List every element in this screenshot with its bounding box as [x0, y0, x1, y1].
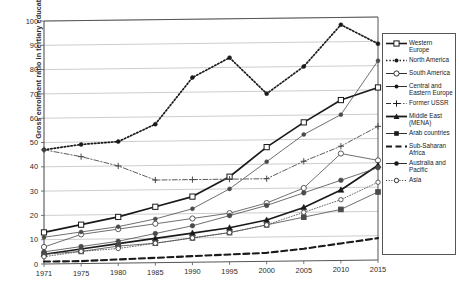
- gridline-y: [44, 139, 378, 143]
- x-tick-label: 2015: [370, 265, 386, 274]
- series-line-2: [44, 154, 378, 247]
- series-marker-6: [376, 190, 381, 195]
- series-marker-4: [152, 177, 158, 183]
- series-marker-8: [79, 244, 84, 249]
- series-line-5: [44, 165, 378, 254]
- chart-legend: Western EuropeNorth AmericaSouth America…: [382, 33, 456, 255]
- series-marker-4: [264, 176, 270, 182]
- series-marker-3: [42, 235, 46, 239]
- x-tick-label: 2010: [333, 265, 349, 274]
- series-marker-0: [190, 194, 195, 199]
- series-marker-1: [376, 42, 380, 46]
- series-line-4: [44, 126, 378, 180]
- y-tick-label: 30: [30, 187, 38, 196]
- chart-figure: Gross enrolment ratio in tertiary educat…: [0, 0, 459, 292]
- legend-item-label: Sub-Saharan Africa: [409, 141, 453, 156]
- series-marker-3: [339, 113, 343, 117]
- x-tick-label: 1975: [73, 269, 89, 278]
- legend-item[interactable]: Central and Eastern Europe: [385, 81, 453, 96]
- series-marker-4: [115, 163, 121, 169]
- series-marker-2: [41, 244, 46, 249]
- series-marker-9: [302, 210, 306, 214]
- y-tick-label: 10: [30, 235, 38, 244]
- series-marker-4: [375, 123, 381, 129]
- series-marker-3: [79, 230, 83, 234]
- series-marker-9: [264, 223, 268, 227]
- series-marker-8: [339, 178, 344, 183]
- gridline-y: [44, 90, 378, 94]
- series-marker-1: [79, 142, 83, 146]
- legend-item[interactable]: Australia and Pacific: [385, 158, 453, 173]
- legend-symbol-icon: [385, 128, 409, 139]
- x-tick-label: 1995: [221, 267, 237, 276]
- series-marker-2: [153, 221, 158, 226]
- series-marker-9: [42, 255, 46, 259]
- gridline-y: [44, 236, 378, 240]
- legend-item-label: South America: [409, 68, 450, 76]
- x-tick-label: 1980: [110, 268, 126, 277]
- series-marker-1: [190, 76, 194, 80]
- series-marker-1: [265, 92, 269, 96]
- series-marker-1: [153, 122, 157, 126]
- series-marker-0: [338, 97, 343, 102]
- legend-item[interactable]: Arab countries: [385, 128, 453, 139]
- series-marker-2: [338, 151, 343, 156]
- series-marker-4: [338, 143, 344, 149]
- gridline-y: [44, 163, 378, 167]
- legend-item[interactable]: South America: [385, 68, 453, 79]
- series-marker-3: [265, 160, 269, 164]
- series-marker-8: [116, 239, 121, 244]
- y-tick-label: 50: [30, 138, 38, 147]
- series-marker-4: [189, 177, 195, 183]
- y-tick-label: 20: [30, 211, 38, 220]
- series-marker-0: [41, 230, 46, 235]
- legend-item-label: Central and Eastern Europe: [409, 81, 453, 96]
- legend-item[interactable]: Middle East (MENA): [385, 111, 453, 126]
- legend-item[interactable]: North America: [385, 55, 453, 66]
- series-marker-8: [301, 191, 306, 196]
- series-marker-0: [264, 145, 269, 150]
- legend-symbol-icon: [385, 38, 409, 49]
- series-marker-2: [301, 185, 306, 190]
- legend-symbol-icon: [385, 81, 409, 92]
- series-marker-8: [42, 250, 47, 255]
- legend-item[interactable]: Former USSR: [385, 98, 453, 109]
- series-marker-8: [264, 203, 269, 208]
- y-tick-label: 80: [30, 65, 38, 74]
- legend-item-label: Asia: [409, 175, 421, 183]
- legend-item-label: Arab countries: [409, 128, 450, 136]
- legend-item-label: North America: [409, 55, 449, 63]
- series-marker-1: [228, 56, 232, 60]
- series-marker-1: [116, 140, 120, 144]
- series-marker-6: [301, 215, 306, 220]
- series-marker-3: [190, 207, 194, 211]
- series-marker-1: [302, 64, 306, 68]
- gridline-y: [44, 41, 378, 45]
- series-marker-9: [339, 197, 343, 201]
- legend-symbol-icon: [385, 175, 409, 186]
- y-tick-label: 60: [30, 114, 38, 123]
- legend-symbol-icon: [385, 141, 409, 152]
- legend-item-label: Western Europe: [409, 38, 453, 53]
- series-marker-9: [227, 230, 231, 234]
- legend-item-label: Former USSR: [409, 98, 449, 106]
- legend-symbol-icon: [385, 111, 409, 122]
- y-tick-label: 0: [34, 260, 38, 269]
- series-marker-2: [190, 216, 195, 221]
- series-marker-8: [227, 213, 232, 218]
- legend-symbol-icon: [385, 55, 409, 66]
- series-marker-1: [339, 23, 343, 27]
- series-marker-9: [190, 236, 194, 240]
- legend-symbol-icon: [385, 158, 409, 169]
- series-marker-8: [376, 165, 381, 170]
- series-marker-9: [116, 246, 120, 250]
- series-marker-8: [190, 223, 195, 228]
- series-marker-3: [228, 187, 232, 191]
- legend-item[interactable]: Sub-Saharan Africa: [385, 141, 453, 156]
- y-tick-label: 100: [26, 17, 38, 26]
- legend-item[interactable]: Asia: [385, 175, 453, 186]
- legend-item[interactable]: Western Europe: [385, 38, 453, 53]
- legend-item-label: Australia and Pacific: [409, 158, 453, 173]
- series-marker-6: [339, 207, 344, 212]
- y-tick-label: 70: [30, 90, 38, 99]
